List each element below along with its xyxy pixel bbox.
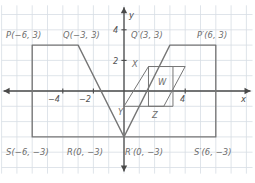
- x-tick-neg4: −4: [48, 95, 60, 103]
- vertex-label-Z: Z: [152, 111, 158, 119]
- vertex-label-S: S(−6, −3): [6, 148, 49, 156]
- y-tick-2: 2: [113, 57, 118, 65]
- vertex-label-Q: Q(−3, 3): [63, 31, 100, 39]
- vertex-label-R-prime: R′(0, −3): [125, 148, 163, 156]
- vertex-label-Q-prime: Q′(3, 3): [131, 31, 163, 39]
- x-axis-label: x: [241, 95, 246, 103]
- vertex-label-P-prime: P′(6, 3): [197, 31, 227, 39]
- vertex-label-Y: Y: [118, 108, 123, 116]
- x-tick-4: 4: [180, 95, 185, 103]
- vertex-label-P: P(−6, 3): [6, 31, 41, 39]
- diagram-canvas: P(−6, 3) Q(−3, 3) Q′(3, 3) P′(6, 3) S(−6…: [0, 0, 255, 183]
- vertex-label-R: R(0, −3): [67, 148, 103, 156]
- y-axis-label: y: [129, 11, 134, 19]
- x-tick-neg2: −2: [79, 95, 91, 103]
- vertex-label-S-prime: S′(6, −3): [194, 148, 232, 156]
- y-tick-4: 4: [113, 26, 118, 34]
- vertex-label-W: W: [158, 78, 166, 86]
- vertex-label-X: X: [132, 60, 138, 68]
